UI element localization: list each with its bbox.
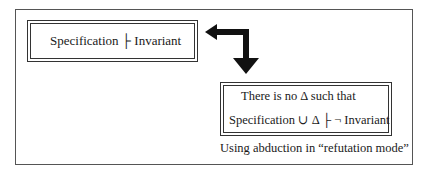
bent-double-arrow-icon	[205, 24, 285, 84]
caption: Using abduction in “refutation mode”	[220, 141, 409, 156]
right-box-line-1: There is no Δ such that	[241, 89, 356, 104]
no-delta-box: There is no Δ such that Specification ∪ …	[220, 82, 392, 136]
specification-entails-invariant-box: Specification ├ Invariant	[27, 20, 198, 62]
left-box-text: Specification ├ Invariant	[50, 33, 181, 49]
right-box-line-2: Specification ∪ Δ ├ ¬ Invariant	[229, 112, 389, 128]
